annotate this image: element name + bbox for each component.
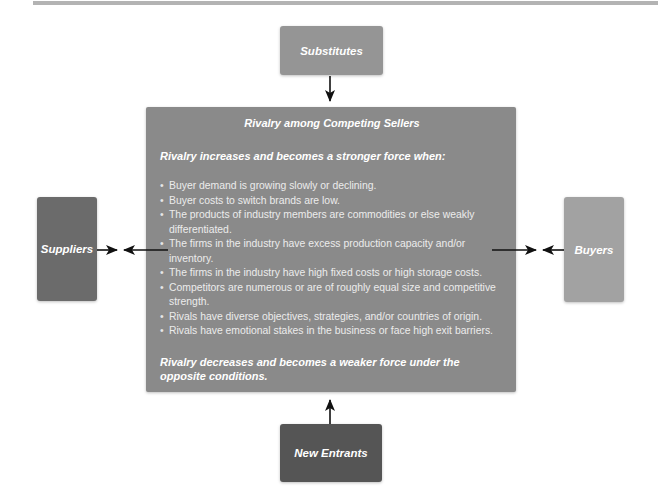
arrows-layer [0, 0, 658, 504]
